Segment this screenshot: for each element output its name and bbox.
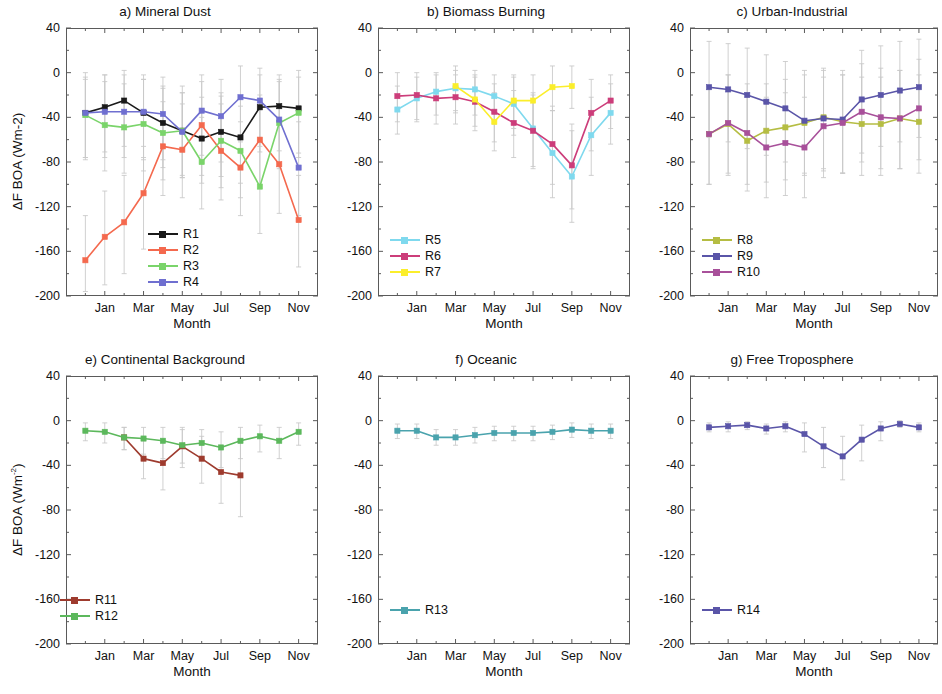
data-point-r14 [802,431,807,436]
legend-key-r12 [60,610,90,622]
data-point-r3 [238,148,243,153]
legend-marker-swatch [713,269,720,276]
panel-title-f: f) Oceanic [330,352,642,367]
y-tick-label: 40 [338,369,372,383]
data-point-r14 [859,437,864,442]
data-point-r14 [897,421,902,426]
data-point-r13 [511,430,516,435]
x-tick-label: Nov [908,301,930,315]
legend-key-r1 [148,228,178,240]
legend-label: R1 [183,228,199,240]
legend-a: R1R2R3R4 [148,226,199,290]
y-tick-label: -120 [338,200,372,214]
data-point-r13 [395,428,400,433]
legend-marker-swatch [71,613,78,620]
legend-label: R14 [737,604,760,616]
y-tick-label: -120 [26,548,60,562]
x-tick-label: May [482,301,506,315]
data-point-r4 [160,111,165,116]
data-point-r11 [160,461,165,466]
x-tick-label: Jan [407,649,427,663]
legend-label: R9 [737,250,753,262]
x-tick-label: Mar [133,301,155,315]
y-tick-label: -80 [338,503,372,517]
legend-item-r13: R13 [390,602,448,618]
data-point-r5 [492,94,497,99]
legend-marker-swatch [71,597,78,604]
legend-label: R8 [737,234,753,246]
y-tick-label: -200 [338,637,372,651]
data-point-r5 [434,89,439,94]
y-tick-label: -40 [650,458,684,472]
data-point-r2 [199,123,204,128]
y-tick-label: -40 [650,110,684,124]
legend-key-r8 [702,234,732,246]
data-point-r14 [821,444,826,449]
data-point-r14 [878,426,883,431]
data-point-r10 [878,115,883,120]
legend-key-r3 [148,260,178,272]
data-point-r14 [783,424,788,429]
panel-oceanic: f) Oceanic 400-40-80-120-160-200 JanMarM… [330,352,642,692]
y-tick-label: -120 [338,548,372,562]
x-tick-label: Jul [525,649,541,663]
x-tick-label: Nov [287,301,309,315]
data-point-r1 [160,120,165,125]
y-tick-label: -160 [26,244,60,258]
data-point-r10 [706,131,711,136]
legend-item-r2: R2 [148,242,199,258]
data-point-r2 [141,191,146,196]
data-point-r6 [395,94,400,99]
legend-item-r8: R8 [702,232,760,248]
legend-e: R11R12 [60,592,118,624]
panel-free-troposphere: g) Free Troposphere 400-40-80-120-160-20… [642,352,942,692]
y-tick-label: -200 [26,637,60,651]
legend-item-r1: R1 [148,226,199,242]
data-point-r6 [434,96,439,101]
data-point-r7 [550,85,555,90]
x-tick-label: Sep [870,301,892,315]
legend-label: R10 [737,266,760,278]
data-point-r9 [706,85,711,90]
legend-item-r12: R12 [60,608,118,624]
legend-item-r9: R9 [702,248,760,264]
legend-marker-swatch [713,237,720,244]
data-point-r8 [745,138,750,143]
y-tick-label: 40 [26,369,60,383]
data-point-r6 [569,163,574,168]
y-tick-label: -40 [26,110,60,124]
data-point-r7 [569,83,574,88]
data-point-r11 [238,473,243,478]
data-point-r3 [199,159,204,164]
data-point-r9 [916,85,921,90]
data-point-r3 [218,138,223,143]
y-tick-label: -200 [338,289,372,303]
legend-item-r10: R10 [702,264,760,280]
y-tick-label: -200 [650,637,684,651]
panel-title-e: e) Continental Background [0,352,330,367]
data-point-r9 [783,106,788,111]
data-point-r2 [160,144,165,149]
data-point-r10 [821,124,826,129]
panel-mineral-dust: a) Mineral Dust 400-40-80-120-160-200 Ja… [0,4,330,344]
y-tick-label: 40 [650,369,684,383]
data-point-r12 [180,443,185,448]
data-point-r14 [764,426,769,431]
data-point-r11 [199,456,204,461]
x-tick-label: Mar [445,301,467,315]
data-point-r2 [277,162,282,167]
y-tick-label: 40 [26,21,60,35]
y-axis-title-e: ΔF BOA (Wm-2) [9,440,25,580]
x-tick-label: Nov [599,649,621,663]
x-axis-title-g: Month [690,664,938,679]
data-point-r14 [840,454,845,459]
data-point-r9 [897,88,902,93]
y-tick-label: 40 [338,21,372,35]
series-line-r4 [85,97,298,167]
data-point-r10 [745,130,750,135]
data-point-r12 [277,438,282,443]
legend-marker-swatch [401,253,408,260]
x-tick-label: Jan [95,301,115,315]
legend-item-r14: R14 [702,602,760,618]
y-tick-label: -80 [338,155,372,169]
